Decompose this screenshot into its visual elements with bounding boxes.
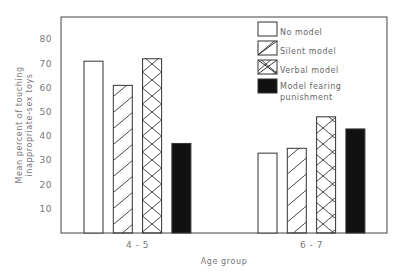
y-axis-title: Mean percent of touching inappropriate-s… (15, 66, 34, 183)
bar-solid (172, 143, 191, 233)
bar-crosshatch (317, 117, 336, 233)
x-axis-labels: 4 - 56 - 7 (126, 240, 323, 250)
legend-label: Model fearing (280, 82, 341, 91)
bar-diagonal (287, 148, 306, 233)
y-axis-ticks: 1020304050607080 (40, 34, 52, 213)
y-tick-label: 80 (40, 34, 52, 44)
legend-swatch-solid (258, 79, 277, 93)
legend-label: punishment (280, 93, 333, 102)
bar-diagonal (113, 85, 132, 233)
y-tick-label: 70 (40, 59, 52, 69)
bar-solid (346, 129, 365, 233)
y-axis-title-line-2: inappropriate-sex toys (25, 73, 34, 176)
bar-empty (258, 153, 277, 233)
y-tick-label: 50 (40, 107, 52, 117)
x-tick-label: 4 - 5 (126, 240, 149, 250)
legend-label: No model (280, 28, 322, 37)
y-tick-label: 40 (40, 131, 52, 141)
y-tick-label: 60 (40, 83, 52, 93)
bar-empty (84, 61, 103, 233)
legend-swatch-empty (258, 22, 277, 36)
bar-crosshatch (143, 59, 162, 233)
y-axis-title-line-1: Mean percent of touching (15, 66, 24, 183)
y-tick-label: 20 (40, 180, 52, 190)
x-tick-label: 6 - 7 (300, 240, 323, 250)
x-axis-title: Age group (201, 257, 248, 266)
bar-chart: 1020304050607080 4 - 56 - 7 Age group Me… (0, 0, 405, 276)
legend-label: Silent model (280, 47, 336, 56)
legend-label: Verbal model (280, 66, 339, 75)
plot-frame (61, 17, 387, 233)
y-tick-label: 30 (40, 155, 52, 165)
y-tick-label: 10 (40, 204, 52, 214)
